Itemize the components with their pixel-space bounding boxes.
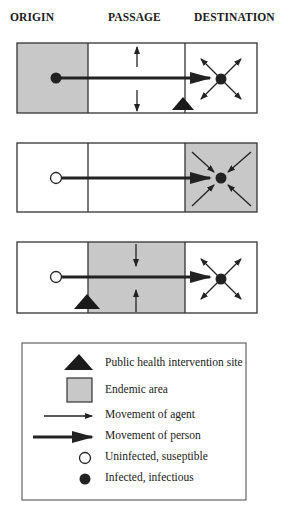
filled-circle-icon [80,474,91,485]
intervention-triangle-icon [172,97,194,110]
gray-square-icon [67,378,92,402]
legend-label-intervention: Public health intervention site [105,356,243,368]
scenario-1 [17,43,257,113]
scenario-2 [17,143,257,212]
open-circle-icon [80,453,91,464]
legend-label-person: Movement of person [105,429,201,441]
legend-label-endemic: Endemic area [105,383,168,395]
scenario-3 [17,242,257,313]
infected-destination-icon [216,173,227,184]
legend-label-agent: Movement of agent [105,408,195,420]
uninfected-origin-icon [51,173,62,184]
infected-origin-icon [51,73,62,84]
legend-label-uninfected: Uninfected, suseptible [105,450,208,462]
uninfected-origin-icon [51,272,62,283]
legend-label-infected: Infected, infectious [105,471,194,483]
